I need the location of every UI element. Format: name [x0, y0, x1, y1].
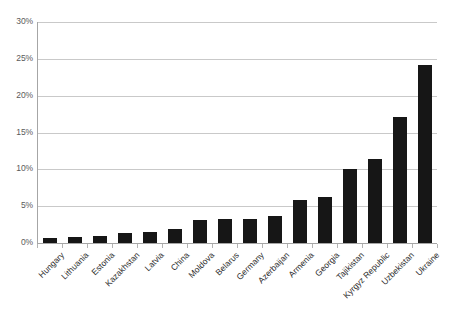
- bar-chart: 0%5%10%15%20%25%30% HungaryLithuaniaEsto…: [0, 0, 450, 312]
- x-axis-category-label: Ukraine: [413, 250, 441, 278]
- x-axis-category-label: China: [168, 250, 191, 273]
- x-axis-category-label: Armenia: [286, 250, 315, 279]
- x-axis-category-label: Moldova: [186, 250, 216, 280]
- x-axis-category-label: Latvia: [142, 250, 165, 273]
- x-axis-category-labels: HungaryLithuaniaEstoniaKazakhstanLatviaC…: [0, 0, 450, 312]
